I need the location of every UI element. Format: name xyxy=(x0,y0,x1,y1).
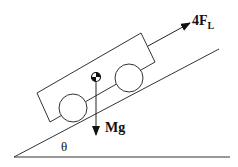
lift-force-arrow xyxy=(148,23,190,46)
angle-label: θ xyxy=(61,139,67,154)
weight-label: Mg xyxy=(105,120,125,135)
rear-wheel xyxy=(59,94,87,122)
center-of-mass-icon xyxy=(92,73,101,82)
incline-line xyxy=(14,49,219,157)
free-body-diagram: 4FL Mg θ xyxy=(0,0,238,167)
front-wheel xyxy=(115,64,143,92)
lift-force-label: 4FL xyxy=(192,13,215,31)
